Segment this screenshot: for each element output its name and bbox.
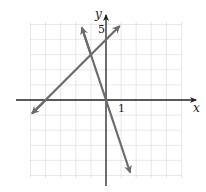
plot-lines xyxy=(32,26,130,172)
line-1-arrow-start xyxy=(32,100,46,114)
y-axis-label: y xyxy=(94,7,102,21)
x-axis-label: x xyxy=(193,101,200,115)
x-tick-label: 1 xyxy=(118,102,125,115)
coordinate-plane: x y 1 5 xyxy=(0,0,206,192)
y-tick-label: 5 xyxy=(98,23,105,36)
line-2-arrow-start xyxy=(82,28,91,55)
